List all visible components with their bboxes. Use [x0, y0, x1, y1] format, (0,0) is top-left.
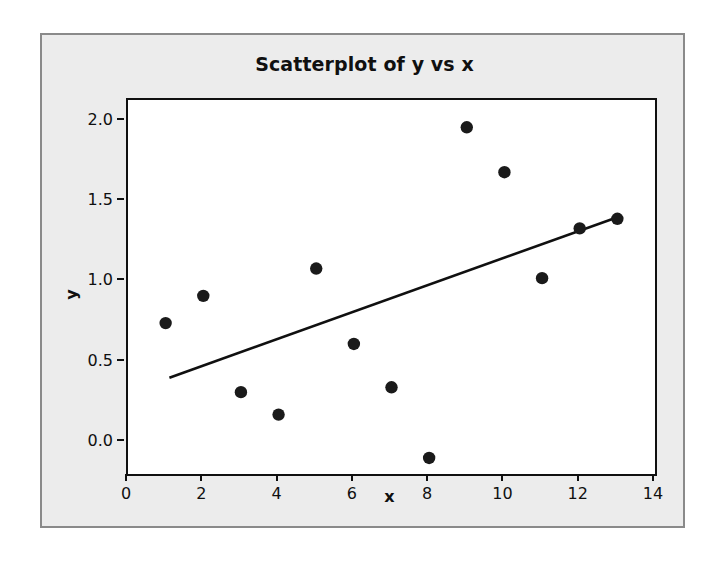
x-axis-tick	[276, 474, 278, 481]
y-axis-tick	[117, 278, 124, 280]
y-axis-tick	[117, 359, 124, 361]
scatter-point	[461, 121, 473, 133]
scatter-point	[348, 338, 360, 350]
x-axis-tick	[125, 474, 127, 481]
x-axis-tick	[351, 474, 353, 481]
scatter-point	[197, 290, 209, 302]
scatterplot-figure: Scatterplot of y vs x 024681012140.00.51…	[40, 33, 685, 528]
figure-page: Scatterplot of y vs x 024681012140.00.51…	[0, 0, 722, 564]
y-axis-tick-label: 2.0	[71, 109, 113, 128]
scatter-point	[611, 213, 623, 225]
scatter-point	[536, 272, 548, 284]
y-axis-tick	[117, 118, 124, 120]
x-axis-tick	[501, 474, 503, 481]
page-title: Scatterplot of y vs x	[42, 53, 687, 75]
y-axis-tick-label: 0.0	[71, 430, 113, 449]
y-axis-title: y	[62, 289, 81, 299]
y-axis-tick-label: 1.5	[71, 190, 113, 209]
y-axis-tick	[117, 439, 124, 441]
scatter-point	[423, 452, 435, 464]
x-axis-tick	[200, 474, 202, 481]
scatter-point	[272, 408, 284, 420]
y-axis-tick-label: 0.5	[71, 350, 113, 369]
plot-area	[126, 98, 657, 476]
scatter-point	[159, 317, 171, 329]
y-axis-tick-label: 1.0	[71, 270, 113, 289]
x-axis-tick	[426, 474, 428, 481]
x-axis-title: x	[126, 487, 653, 506]
regression-line	[169, 217, 617, 378]
x-axis-tick	[652, 474, 654, 481]
scatter-point	[385, 381, 397, 393]
y-axis-tick	[117, 198, 124, 200]
scatter-point	[235, 386, 247, 398]
scatter-point	[574, 222, 586, 234]
plot-canvas	[128, 100, 655, 474]
scatter-point	[498, 166, 510, 178]
x-axis-tick	[577, 474, 579, 481]
scatter-point	[310, 262, 322, 274]
